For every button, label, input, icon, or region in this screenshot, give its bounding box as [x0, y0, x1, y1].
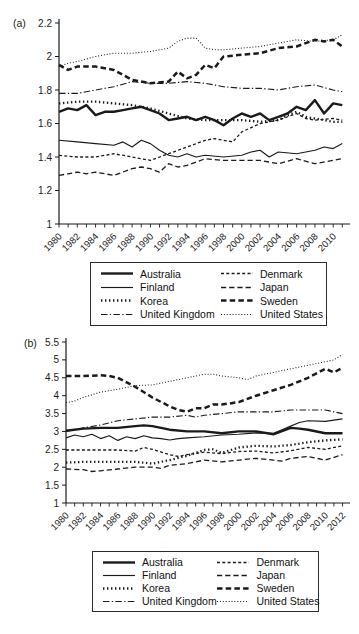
x-tick-label: 2008 — [290, 510, 313, 533]
legend-line-sample-icon — [102, 584, 136, 593]
y-tick-label: 4.5 — [45, 372, 59, 383]
legend-line-sample-icon — [100, 269, 134, 278]
x-tick-label: 1984 — [83, 510, 106, 533]
legend-item-japan: Japan — [220, 281, 318, 294]
x-tick-label: 1982 — [65, 510, 88, 533]
x-tick-label: 2006 — [279, 231, 302, 254]
series-line-japan — [59, 159, 342, 176]
y-tick-label: 1.8 — [38, 85, 52, 96]
legend-line-sample-icon — [102, 571, 136, 580]
series-line-sweden — [66, 368, 343, 412]
legend-item-united-states: United States — [220, 308, 318, 321]
legend-label: Japan — [260, 282, 289, 293]
legend-line-sample-icon — [102, 558, 136, 567]
series-line-finland — [59, 140, 342, 157]
x-tick-label: 2000 — [221, 510, 244, 533]
legend-item-finland: Finland — [102, 569, 216, 582]
x-tick-label: 1998 — [206, 231, 229, 254]
x-tick-label: 1998 — [204, 510, 227, 533]
x-tick-label: 1990 — [133, 231, 156, 254]
legend-line-sample-icon — [216, 584, 250, 593]
legend-line-sample-icon — [216, 558, 250, 567]
legend-label: Korea — [142, 583, 170, 594]
legend-line-sample-icon — [220, 310, 254, 319]
y-tick-label: 1.4 — [38, 152, 52, 163]
legend-label: United States — [256, 596, 319, 607]
legend-item-united-kingdom: United Kingdom — [100, 308, 220, 321]
figure: 11.21.41.61.822.219801982198419861988199… — [0, 0, 359, 634]
panel-label: (a) — [13, 17, 26, 29]
x-tick-label: 2004 — [261, 231, 284, 254]
legend-item-sweden: Sweden — [216, 582, 310, 595]
chart-panel-b: 11.522.533.544.555.519801982198419861988… — [0, 330, 359, 552]
y-tick-label: 2 — [53, 462, 59, 473]
series-line-japan — [66, 455, 343, 472]
y-tick-label: 5 — [53, 354, 59, 365]
x-tick-label: 1988 — [117, 510, 140, 533]
x-tick-label: 1986 — [100, 510, 123, 533]
y-tick-label: 1.2 — [38, 185, 52, 196]
x-tick-label: 1996 — [186, 510, 209, 533]
legend-label: Denmark — [256, 557, 299, 568]
x-tick-label: 1994 — [169, 231, 192, 254]
legend-item-australia: Australia — [102, 556, 216, 569]
legend-item-united-states: United States — [216, 595, 310, 608]
legend-label: Korea — [140, 296, 168, 307]
legend-panel-b: AustraliaDenmarkFinlandJapanKoreaSwedenU… — [92, 551, 319, 612]
x-tick-label: 1990 — [135, 510, 158, 533]
legend-item-finland: Finland — [100, 281, 220, 294]
legend-label: Australia — [142, 557, 183, 568]
x-tick-label: 1992 — [152, 510, 175, 533]
legend-item-korea: Korea — [102, 582, 216, 595]
legend-label: Japan — [256, 570, 285, 581]
legend-panel-a: AustraliaDenmarkFinlandJapanKoreaSwedenU… — [90, 262, 327, 326]
x-tick-label: 2010 — [315, 231, 338, 254]
x-tick-label: 2002 — [242, 231, 265, 254]
legend-item-united-kingdom: United Kingdom — [102, 595, 216, 608]
x-tick-label: 2004 — [256, 510, 279, 533]
legend-item-denmark: Denmark — [216, 556, 310, 569]
panel-label: (b) — [24, 337, 37, 349]
legend-line-sample-icon — [216, 571, 250, 580]
x-tick-label: 1984 — [78, 231, 101, 254]
legend-line-sample-icon — [220, 283, 254, 292]
x-tick-label: 2008 — [297, 231, 320, 254]
x-tick-label: 1992 — [151, 231, 174, 254]
y-tick-label: 2.5 — [45, 444, 59, 455]
x-tick-label: 2002 — [238, 510, 261, 533]
y-tick-label: 2.2 — [38, 18, 52, 29]
y-tick-label: 3 — [53, 426, 59, 437]
legend-item-sweden: Sweden — [220, 294, 318, 307]
legend-label: United Kingdom — [140, 309, 215, 320]
legend-line-sample-icon — [100, 310, 134, 319]
legend-item-korea: Korea — [100, 294, 220, 307]
x-tick-label: 1980 — [48, 510, 71, 533]
series-line-united-states — [66, 355, 343, 403]
legend-label: Finland — [142, 570, 176, 581]
x-tick-label: 1986 — [96, 231, 119, 254]
series-line-australia — [66, 425, 343, 434]
y-tick-label: 1 — [46, 219, 52, 230]
y-tick-label: 1 — [53, 498, 59, 509]
legend-item-denmark: Denmark — [220, 267, 318, 280]
legend-label: United States — [260, 309, 323, 320]
series-line-united-kingdom — [59, 82, 342, 94]
x-tick-label: 1994 — [169, 510, 192, 533]
series-line-sweden — [59, 40, 342, 84]
legend-line-sample-icon — [100, 296, 134, 305]
legend-label: Denmark — [260, 269, 303, 280]
legend-line-sample-icon — [100, 283, 134, 292]
series-line-denmark — [66, 446, 343, 457]
x-tick-label: 1988 — [114, 231, 137, 254]
x-tick-label: 1982 — [59, 231, 82, 254]
x-tick-label: 2010 — [307, 510, 330, 533]
legend-label: Sweden — [260, 296, 298, 307]
legend-line-sample-icon — [102, 597, 136, 606]
legend-line-sample-icon — [216, 597, 250, 606]
x-tick-label: 1996 — [187, 231, 210, 254]
y-tick-label: 3.5 — [45, 408, 59, 419]
x-tick-label: 1980 — [41, 231, 64, 254]
y-tick-label: 2 — [46, 51, 52, 62]
x-tick-label: 2000 — [224, 231, 247, 254]
chart-panel-a: 11.21.41.61.822.219801982198419861988199… — [0, 0, 359, 262]
